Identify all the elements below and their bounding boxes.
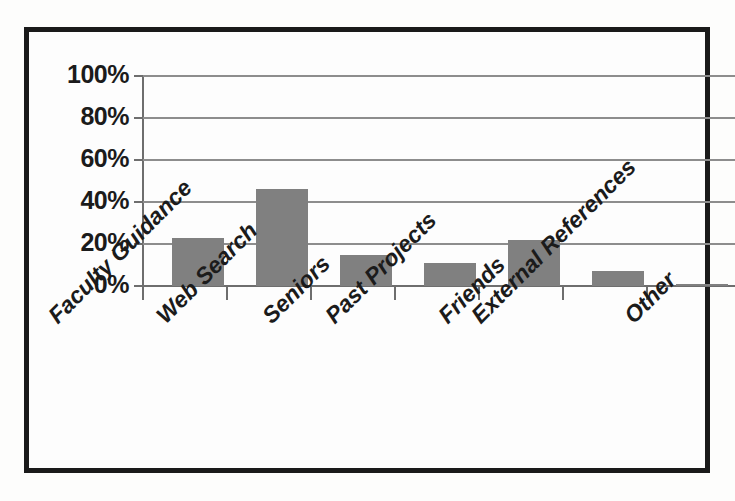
- x-axis-tick-mark: [562, 286, 564, 300]
- x-axis-tick-mark: [478, 286, 480, 300]
- x-axis-tick-mark: [646, 286, 648, 300]
- x-axis-tick-mark: [226, 286, 228, 300]
- y-axis-tick-label: 20%: [37, 230, 129, 255]
- chart-figure-frame: 100% 80% 60% 40% 20% 0% Faculty Guid: [24, 27, 710, 473]
- bar-web-search: [256, 189, 308, 286]
- bar-friends: [508, 240, 560, 286]
- y-axis-tick-label: 80%: [37, 104, 129, 129]
- gridline-100: [143, 75, 735, 77]
- y-axis-tick-label: 40%: [37, 188, 129, 213]
- y-axis-tick-label: 0%: [37, 272, 129, 297]
- y-axis-tick-label: 60%: [37, 146, 129, 171]
- y-axis-labels: 100% 80% 60% 40% 20% 0%: [29, 32, 129, 332]
- y-axis-tick-label: 100%: [37, 62, 129, 87]
- x-axis-tick-mark: [142, 286, 144, 300]
- bar-past-projects: [424, 263, 476, 286]
- gridline-60: [143, 159, 735, 161]
- x-axis-tick-mark: [394, 286, 396, 300]
- gridline-40: [143, 201, 735, 203]
- bar-seniors: [340, 255, 392, 287]
- gridline-80: [143, 117, 735, 119]
- gridline-20: [143, 243, 735, 245]
- bar-external-references: [592, 271, 644, 286]
- x-axis-tick-mark: [310, 286, 312, 300]
- plot-area: [143, 75, 735, 286]
- bar-faculty-guidance: [172, 238, 224, 286]
- bar-other: [676, 284, 728, 286]
